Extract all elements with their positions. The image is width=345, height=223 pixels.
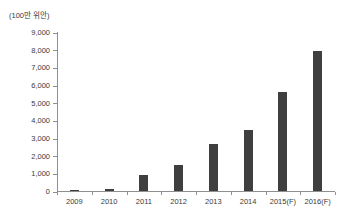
y-tick-label: 6,000	[31, 82, 50, 90]
y-tick-mark	[53, 68, 57, 69]
x-tick-label: 2010	[101, 198, 118, 206]
y-tick-label: 2,000	[31, 153, 50, 161]
bar-2016(F)	[313, 51, 322, 191]
x-tick-mark	[57, 192, 58, 195]
y-tick-label: 1,000	[31, 171, 50, 179]
bar-2011	[139, 175, 148, 191]
y-tick-mark	[53, 103, 57, 104]
x-tick-label: 2014	[240, 198, 257, 206]
y-tick-mark	[53, 121, 57, 122]
y-tick-mark	[53, 156, 57, 157]
x-tick-label: 2012	[170, 198, 187, 206]
y-tick-mark	[53, 174, 57, 175]
bar-2014	[244, 130, 253, 191]
x-tick-mark	[231, 192, 232, 195]
y-tick-label: 3,000	[31, 135, 50, 143]
x-tick-label: 2011	[136, 198, 152, 206]
x-tick-label: 2013	[205, 198, 222, 206]
y-tick-label: 5,000	[31, 100, 50, 108]
x-tick-mark	[335, 192, 336, 195]
x-tick-label: 2016(F)	[304, 198, 330, 206]
y-tick-label: 7,000	[31, 65, 50, 73]
x-tick-label: 2015(F)	[270, 198, 296, 206]
y-tick-label: 0	[46, 188, 50, 196]
y-tick-mark	[53, 50, 57, 51]
y-axis-unit-label: (100만 위안)	[9, 9, 50, 20]
y-axis-line	[57, 32, 58, 192]
plot-area: 01,0002,0003,0004,0005,0006,0007,0008,00…	[57, 33, 335, 192]
x-tick-mark	[161, 192, 162, 195]
y-tick-mark	[53, 33, 57, 34]
x-tick-mark	[127, 192, 128, 195]
bar-2012	[174, 165, 183, 192]
y-tick-label: 8,000	[31, 47, 50, 55]
bar-chart-figure: (100만 위안) 01,0002,0003,0004,0005,0006,00…	[0, 0, 345, 223]
y-tick-label: 9,000	[31, 29, 50, 37]
y-tick-mark	[53, 86, 57, 87]
bar-2013	[209, 144, 218, 191]
y-tick-mark	[53, 139, 57, 140]
bar-2010	[105, 189, 114, 191]
y-tick-label: 4,000	[31, 118, 50, 126]
x-tick-mark	[266, 192, 267, 195]
x-tick-mark	[300, 192, 301, 195]
x-tick-label: 2009	[66, 198, 83, 206]
bar-2015(F)	[278, 92, 287, 191]
x-tick-mark	[196, 192, 197, 195]
bar-2009	[70, 190, 79, 191]
x-tick-mark	[92, 192, 93, 195]
